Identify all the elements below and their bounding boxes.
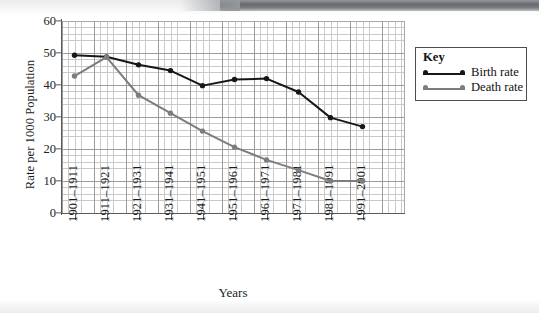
legend-label: Death rate (471, 80, 523, 95)
series-data-point (136, 93, 141, 98)
series-data-point (296, 89, 301, 94)
series-data-point (104, 54, 109, 59)
line-chart-figure: 0102030405060 Rate per 1000 Population 1… (0, 0, 539, 313)
legend-entry-death-rate[interactable]: Death rate (423, 80, 523, 96)
series-line (75, 57, 363, 181)
legend-entry-birth-rate[interactable]: Birth rate (423, 65, 523, 81)
series-data-point (168, 110, 173, 115)
legend-box: Key Birth rate Death rate (415, 47, 527, 101)
series-data-point (264, 76, 269, 81)
series-data-point (200, 128, 205, 133)
series-data-point (72, 73, 77, 78)
legend-line-swatch (423, 73, 465, 75)
legend-line-swatch (423, 88, 465, 90)
series-data-point (264, 157, 269, 162)
legend-title: Key (423, 50, 445, 65)
legend-label: Birth rate (471, 65, 519, 80)
series-data-point (72, 53, 77, 58)
series-data-point (232, 77, 237, 82)
series-data-point (232, 144, 237, 149)
series-data-point (360, 124, 365, 129)
series-data-point (296, 167, 301, 172)
series-data-point (168, 68, 173, 73)
series-line (75, 55, 363, 126)
series-data-point (136, 62, 141, 67)
series-data-point (200, 83, 205, 88)
series-data-point (328, 115, 333, 120)
series-data-point (328, 178, 333, 183)
series-data-point (360, 178, 365, 183)
